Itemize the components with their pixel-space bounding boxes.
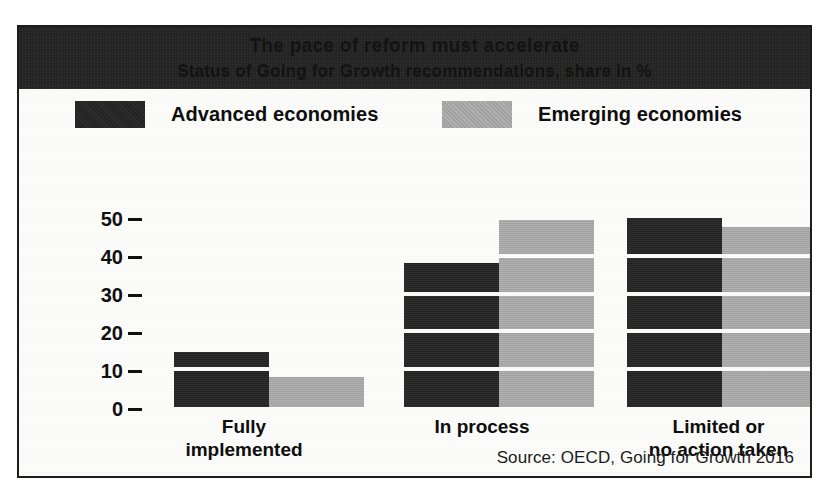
legend-item-advanced-economies: Advanced economies — [75, 101, 378, 128]
chart-subtitle: Status of Going for Growth recommendatio… — [19, 58, 810, 83]
bar-advanced-2 — [627, 218, 722, 407]
tick-dash-icon — [128, 294, 142, 297]
bar-emerging-1 — [499, 220, 594, 407]
legend-item-emerging-economies: Emerging economies — [442, 101, 742, 128]
y-axis-tick-20: 20 — [47, 323, 142, 343]
legend-label-advanced: Advanced economies — [171, 103, 378, 126]
source-note: Source: OECD, Going for Growth 2016 — [497, 448, 794, 468]
tick-dash-icon — [128, 370, 142, 373]
y-axis-tick-40-label: 40 — [101, 246, 123, 268]
y-axis-tick-10: 10 — [47, 361, 142, 381]
plot-area: 50 40 30 20 10 0 Fully implemented In pr… — [19, 151, 810, 478]
y-axis-tick-30-label: 30 — [101, 284, 123, 306]
chart-legend: Advanced economies Emerging economies — [19, 89, 810, 151]
legend-swatch-icon-emerging — [442, 101, 512, 128]
category-label-in-process: In process — [387, 415, 577, 438]
y-axis-tick-10-label: 10 — [101, 360, 123, 382]
bar-emerging-2 — [722, 227, 812, 407]
legend-label-emerging: Emerging economies — [538, 103, 742, 126]
y-axis-tick-20-label: 20 — [101, 322, 123, 344]
y-axis-tick-50-label: 50 — [101, 208, 123, 230]
y-axis-tick-0: 0 — [47, 399, 142, 419]
y-axis-tick-30: 30 — [47, 285, 142, 305]
bar-advanced-1 — [404, 263, 499, 407]
tick-dash-icon — [128, 256, 142, 259]
category-label-fully-implemented: Fully implemented — [149, 415, 339, 461]
chart-title: The pace of reform must accelerate — [19, 32, 810, 58]
title-banner: The pace of reform must accelerate Statu… — [19, 27, 810, 89]
tick-dash-icon — [128, 408, 142, 411]
chart-figure: The pace of reform must accelerate Statu… — [17, 25, 812, 478]
legend-swatch-icon-advanced — [75, 101, 145, 128]
bar-group-limited-or-no-action — [627, 218, 812, 407]
bar-advanced-0 — [174, 352, 269, 407]
bar-emerging-0 — [269, 377, 364, 407]
y-axis-tick-50: 50 — [47, 209, 142, 229]
bar-group-in-process — [404, 220, 594, 407]
tick-dash-icon — [128, 218, 142, 221]
bar-group-fully-implemented — [174, 352, 364, 407]
y-axis-tick-0-label: 0 — [112, 398, 123, 420]
tick-dash-icon — [128, 332, 142, 335]
y-axis-tick-40: 40 — [47, 247, 142, 267]
